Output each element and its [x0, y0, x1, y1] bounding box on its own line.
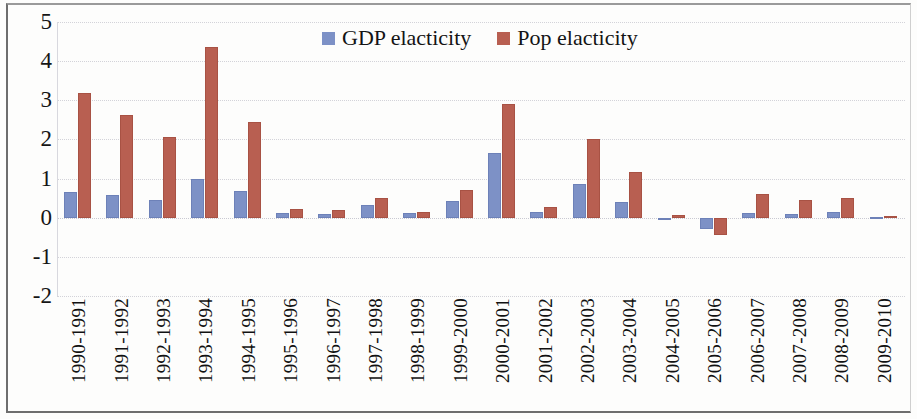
bar-group [523, 22, 565, 296]
bar-pop [756, 194, 769, 217]
x-tick-label-text: 1992-1993 [153, 298, 172, 383]
x-tick-label-text: 1999-2000 [450, 298, 469, 383]
y-tick-label: -1 [6, 245, 52, 268]
x-tick-label-text: 2000-2001 [493, 298, 512, 383]
bar-chart: 543210-1-2 GDP elacticity Pop elacticity… [0, 0, 917, 419]
bar-group [227, 22, 269, 296]
x-tick-label: 2009-2010 [863, 296, 905, 416]
bar-pop [120, 115, 133, 218]
x-tick-label: 1993-1994 [184, 296, 226, 416]
legend-swatch-pop-icon [497, 32, 510, 45]
bar-pop [375, 198, 388, 218]
x-tick-label-text: 1993-1994 [196, 298, 215, 383]
y-tick-label: 2 [6, 127, 52, 150]
bar-gdp [149, 200, 162, 218]
x-axis-labels: 1990-19911991-19921992-19931993-19941994… [57, 296, 905, 419]
bar-group [184, 22, 226, 296]
bar-pop [884, 216, 897, 218]
bar-gdp [488, 153, 501, 218]
y-tick-label: 4 [6, 49, 52, 72]
bar-group [735, 22, 777, 296]
x-tick-label-text: 2001-2002 [535, 298, 554, 383]
bar-group [439, 22, 481, 296]
x-tick-label: 2000-2001 [481, 296, 523, 416]
bar-pop [332, 210, 345, 217]
bar-gdp [742, 213, 755, 218]
x-tick-label: 1990-1991 [57, 296, 99, 416]
x-tick-label-text: 1991-1992 [111, 298, 130, 383]
x-tick-label-text: 1997-1998 [365, 298, 384, 383]
x-tick-label-text: 1996-1997 [323, 298, 342, 383]
bar-pop [248, 122, 261, 218]
x-tick-label: 2004-2005 [651, 296, 693, 416]
x-tick-label: 2008-2009 [820, 296, 862, 416]
bar-group [566, 22, 608, 296]
bar-group [57, 22, 99, 296]
legend-swatch-gdp-icon [322, 32, 335, 45]
x-tick-label: 2003-2004 [608, 296, 650, 416]
bar-group [863, 22, 905, 296]
x-tick-label: 1991-1992 [99, 296, 141, 416]
bar-group [651, 22, 693, 296]
y-tick-label: 3 [6, 88, 52, 111]
y-tick-label: -2 [6, 284, 52, 307]
bar-pop [460, 190, 473, 217]
x-tick-label-text: 1990-1991 [69, 298, 88, 383]
bar-gdp [234, 191, 247, 218]
bar-gdp [446, 201, 459, 217]
x-tick-label: 1999-2000 [439, 296, 481, 416]
x-tick-label: 1996-1997 [311, 296, 353, 416]
bar-group [396, 22, 438, 296]
bar-pop [587, 139, 600, 217]
x-tick-label: 2006-2007 [735, 296, 777, 416]
bar-gdp [64, 192, 77, 218]
bar-gdp [700, 218, 713, 230]
x-tick-label-text: 1995-1996 [281, 298, 300, 383]
x-tick-label-text: 1998-1999 [408, 298, 427, 383]
bar-pop [417, 212, 430, 218]
bar-gdp [827, 212, 840, 217]
bar-group [311, 22, 353, 296]
x-tick-label: 2005-2006 [693, 296, 735, 416]
bar-gdp [785, 214, 798, 218]
chart-legend: GDP elacticity Pop elacticity [322, 27, 638, 49]
bar-gdp [191, 179, 204, 218]
bar-gdp [573, 184, 586, 218]
legend-label-gdp: GDP elacticity [342, 27, 471, 49]
x-tick-label-text: 1994-1995 [238, 298, 257, 383]
bar-gdp [658, 218, 671, 220]
bar-group [481, 22, 523, 296]
x-tick-label: 1997-1998 [354, 296, 396, 416]
legend-item-pop: Pop elacticity [497, 27, 637, 49]
bar-series-container [57, 22, 905, 296]
legend-item-gdp: GDP elacticity [322, 27, 471, 49]
x-tick-label-text: 2007-2008 [789, 298, 808, 383]
x-tick-label: 2007-2008 [778, 296, 820, 416]
bar-pop [205, 47, 218, 218]
x-tick-label-text: 2005-2006 [705, 298, 724, 383]
bar-pop [502, 104, 515, 218]
bar-group [99, 22, 141, 296]
bar-group [269, 22, 311, 296]
x-tick-label: 2002-2003 [566, 296, 608, 416]
y-tick-label: 1 [6, 167, 52, 190]
y-axis-labels: 543210-1-2 [0, 0, 52, 419]
x-tick-label-text: 2003-2004 [620, 298, 639, 383]
bar-pop [799, 200, 812, 218]
bar-pop [714, 218, 727, 236]
x-tick-label-text: 2009-2010 [874, 298, 893, 383]
bar-pop [672, 215, 685, 218]
bar-gdp [361, 205, 374, 218]
x-tick-label: 1995-1996 [269, 296, 311, 416]
bar-group [778, 22, 820, 296]
bar-gdp [530, 212, 543, 217]
x-tick-label: 2001-2002 [523, 296, 565, 416]
bar-pop [290, 209, 303, 218]
bar-group [820, 22, 862, 296]
y-tick-label: 5 [6, 10, 52, 33]
bar-group [693, 22, 735, 296]
y-tick-label: 0 [6, 206, 52, 229]
bar-gdp [615, 202, 628, 218]
x-tick-label-text: 2008-2009 [832, 298, 851, 383]
bar-pop [544, 207, 557, 218]
